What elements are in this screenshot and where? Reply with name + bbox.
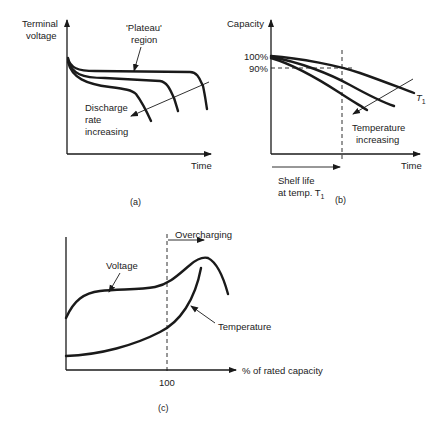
- rate-arrow: [131, 82, 209, 116]
- ylabel: Capacity: [227, 18, 264, 29]
- caption-b: (b): [335, 195, 346, 205]
- curve-voltage: [66, 258, 228, 318]
- voltage-label: Voltage: [106, 260, 138, 271]
- temp-arrow: [353, 79, 413, 114]
- plateau-label-2: region: [131, 34, 157, 45]
- tick-90: 90%: [249, 63, 269, 74]
- curve-temperature: [66, 268, 201, 356]
- rate-label-2: rate: [85, 114, 101, 125]
- xlabel: Time: [401, 160, 422, 171]
- xlabel: % of rated capacity: [242, 365, 323, 376]
- plateau-pointer: [134, 47, 141, 71]
- shelf-label-1: Shelf life: [278, 175, 314, 186]
- ylabel-line2: voltage: [26, 30, 57, 41]
- caption-a: (a): [130, 197, 141, 207]
- temp-label-1: Temperature: [352, 122, 405, 133]
- overcharging-label: Overcharging: [175, 229, 232, 240]
- plateau-label-1: 'Plateau': [126, 22, 162, 33]
- rate-label-1: Discharge: [85, 102, 128, 113]
- rate-label-3: increasing: [85, 126, 128, 137]
- figure-canvas: Terminal voltage Time 'Plateau' region D…: [0, 0, 446, 432]
- tick-100: 100%: [244, 51, 269, 62]
- ylabel-line1: Terminal: [22, 18, 58, 29]
- xlabel: Time: [191, 160, 212, 171]
- temp-label-2: increasing: [356, 134, 399, 145]
- panel-a: Terminal voltage Time 'Plateau' region D…: [22, 18, 212, 207]
- t1-label: T1: [416, 92, 426, 105]
- shelf-label-2: at temp. T1: [278, 187, 325, 200]
- temperature-label: Temperature: [218, 321, 271, 332]
- tick-100: 100: [159, 377, 175, 388]
- panel-c: % of rated capacity 100 Overcharging Vol…: [66, 229, 323, 413]
- curve-temp-3: [271, 58, 367, 110]
- temperature-pointer: [191, 306, 215, 323]
- caption-c: (c): [158, 403, 169, 413]
- panel-b: Capacity Time 100% 90% T1 Temperature in…: [227, 18, 426, 205]
